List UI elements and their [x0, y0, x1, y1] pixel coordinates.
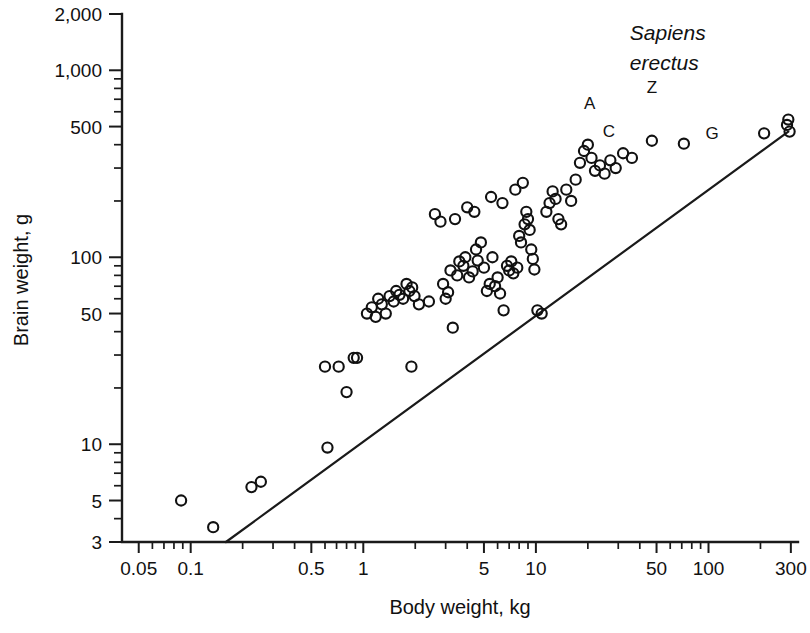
data-point [566, 196, 576, 206]
annotation-sapiens: Sapiens [630, 21, 706, 44]
x-tick-label: 100 [693, 558, 725, 579]
data-point [679, 139, 689, 149]
y-tick-label: 50 [81, 304, 102, 325]
chart-canvas: 0.050.10.5151050100300 3510501005001,000… [0, 0, 810, 633]
y-axis-ticks [109, 14, 122, 542]
data-point [486, 192, 496, 202]
x-tick-label: 5 [479, 558, 490, 579]
axis-frame [122, 14, 798, 542]
x-axis-title: Body weight, kg [389, 596, 530, 618]
data-points [176, 114, 795, 532]
annotation-z: Z [647, 78, 657, 97]
x-tick-label: 0.1 [177, 558, 203, 579]
data-point [424, 296, 434, 306]
data-point [561, 185, 571, 195]
data-point [448, 323, 458, 333]
data-point [785, 126, 795, 136]
data-point [571, 175, 581, 185]
data-point [208, 522, 218, 532]
x-tick-label: 0.5 [298, 558, 324, 579]
brain-body-weight-scatter-figure: 0.050.10.5151050100300 3510501005001,000… [0, 0, 810, 633]
axis-lines [122, 14, 798, 542]
data-point [320, 362, 330, 372]
data-point [435, 217, 445, 227]
allometric-reference-line [226, 132, 788, 542]
data-point [518, 178, 528, 188]
y-tick-label: 3 [91, 532, 102, 553]
data-point [599, 169, 609, 179]
data-point [516, 237, 526, 247]
data-point [381, 308, 391, 318]
data-point [497, 198, 507, 208]
data-point [529, 264, 539, 274]
data-point [371, 312, 381, 322]
x-axis-tick-labels: 0.050.10.5151050100300 [120, 558, 806, 579]
data-point [176, 495, 186, 505]
data-point [256, 477, 266, 487]
data-point [647, 136, 657, 146]
x-tick-label: 10 [525, 558, 546, 579]
data-point [441, 294, 451, 304]
y-axis-tick-labels: 3510501005001,0002,000 [54, 4, 102, 553]
data-point [495, 288, 505, 298]
x-tick-label: 300 [775, 558, 807, 579]
y-tick-label: 100 [70, 247, 102, 268]
data-point [611, 163, 621, 173]
data-point [414, 299, 424, 309]
point-annotations: SapienserectusACZG [584, 21, 719, 143]
annotation-g: G [706, 124, 719, 143]
annotation-a: A [584, 94, 596, 113]
data-point [627, 153, 637, 163]
x-tick-label: 50 [646, 558, 667, 579]
data-point [406, 362, 416, 372]
x-tick-label: 0.05 [120, 558, 157, 579]
annotation-c: C [603, 122, 615, 141]
data-point [514, 231, 524, 241]
data-point [334, 362, 344, 372]
data-point [479, 263, 489, 273]
data-point [450, 214, 460, 224]
data-point [499, 305, 509, 315]
y-tick-label: 10 [81, 434, 102, 455]
data-point [575, 158, 585, 168]
y-tick-label: 500 [70, 117, 102, 138]
y-tick-label: 1,000 [54, 60, 102, 81]
data-point [341, 387, 351, 397]
x-tick-label: 1 [358, 558, 369, 579]
x-axis-ticks [139, 542, 791, 553]
data-point [443, 287, 453, 297]
data-point [487, 252, 497, 262]
data-point [322, 442, 332, 452]
reference-line [226, 132, 788, 542]
y-tick-label: 5 [91, 491, 102, 512]
data-point [759, 128, 769, 138]
annotation-erectus: erectus [630, 51, 699, 74]
y-tick-label: 2,000 [54, 4, 102, 25]
data-point [586, 153, 596, 163]
y-axis-title: Brain weight, g [10, 214, 32, 346]
